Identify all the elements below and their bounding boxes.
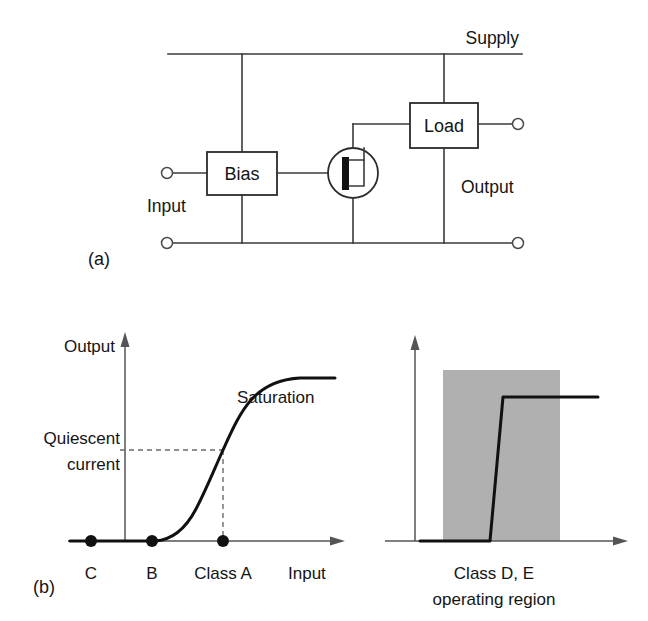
panel-b-label: (b) [33, 577, 55, 597]
supply-label: Supply [465, 28, 519, 48]
class-de-label-line2: operating region [433, 590, 556, 609]
class-b-tick-label: B [146, 564, 157, 583]
class-b-point [146, 535, 158, 547]
panel-a-label: (a) [88, 249, 110, 269]
bias-block-label: Bias [224, 164, 259, 184]
transistor-envelope-circle [328, 148, 378, 198]
input-terminal [162, 168, 173, 179]
left-chart-x-axis-arrow [330, 537, 345, 546]
figure-container: Bias Load [0, 0, 648, 621]
load-block-label: Load [424, 116, 464, 136]
output-terminal [513, 119, 524, 130]
class-de-label-line1: Class D, E [454, 564, 534, 583]
circuit-diagram: Bias Load [88, 28, 524, 269]
quiescent-label-line1: Quiescent [43, 429, 120, 448]
right-chart-y-axis-arrow [411, 335, 420, 350]
figure-svg: Bias Load [0, 0, 648, 621]
left-chart-x-axis-label: Input [288, 564, 326, 583]
transistor-gate-bar [342, 157, 349, 190]
class-a-point [217, 535, 229, 547]
class-a-tick-label: Class A [194, 564, 252, 583]
class-c-point [85, 535, 97, 547]
output-label: Output [461, 177, 514, 197]
transfer-characteristic-chart: Output Input Quiescent current Saturatio… [33, 332, 345, 597]
saturation-label: Saturation [237, 388, 315, 407]
left-chart-y-axis-label: Output [64, 337, 115, 356]
class-c-tick-label: C [85, 564, 97, 583]
output-return-terminal [513, 238, 524, 249]
input-label: Input [147, 196, 186, 216]
transistor-symbol [328, 148, 378, 198]
quiescent-label-line2: current [67, 455, 120, 474]
switching-characteristic-chart: Class D, E operating region [385, 335, 628, 609]
input-return-terminal [162, 238, 173, 249]
left-chart-y-axis-arrow [121, 332, 130, 347]
right-chart-x-axis-arrow [613, 537, 628, 546]
